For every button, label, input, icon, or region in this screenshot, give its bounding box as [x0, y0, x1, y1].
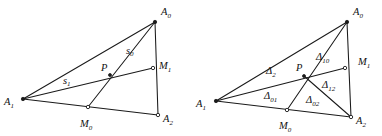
label-A0: A0	[160, 6, 171, 20]
point-M0	[86, 105, 89, 108]
label-M0: M0	[79, 118, 93, 132]
label-A2: A2	[162, 113, 173, 127]
point-M1	[151, 66, 154, 69]
figure-container: A0 A1 A2 M0 M1 P s0 s1	[0, 0, 382, 136]
point-A1	[21, 97, 24, 100]
point-r-M1	[343, 66, 346, 69]
label-r-A0: A0	[352, 6, 363, 20]
label-delta-2: Δ2	[265, 65, 276, 79]
label-A1: A1	[3, 96, 14, 110]
label-s0: s0	[126, 45, 134, 58]
right-panel: A0 A1 A2 M0 M1 P Δ10 Δ2 Δ12 Δ01 Δ02	[195, 6, 370, 134]
edge-A0-M0	[88, 22, 155, 107]
point-A0	[153, 20, 156, 23]
edge-A1-A2	[23, 99, 158, 115]
label-s1: s1	[63, 75, 71, 88]
point-r-A0	[345, 20, 348, 23]
left-panel: A0 A1 A2 M0 M1 P s0 s1	[3, 6, 173, 132]
point-A2	[156, 113, 159, 116]
point-r-A2	[349, 115, 352, 118]
label-delta-01: Δ01	[263, 90, 277, 104]
label-M1: M1	[158, 60, 171, 74]
label-r-M0: M0	[278, 120, 292, 134]
point-r-M0	[285, 108, 288, 111]
edge-A1-M1	[23, 68, 153, 99]
label-P: P	[100, 62, 108, 73]
label-r-P: P	[295, 62, 303, 73]
label-r-M1: M1	[357, 56, 370, 70]
edge-r-A1-A2	[216, 101, 351, 117]
edge-A0-A1	[23, 22, 155, 99]
point-r-P	[303, 75, 306, 78]
edge-A2-A0	[155, 22, 158, 115]
label-r-A2: A2	[355, 115, 366, 129]
label-r-A1: A1	[195, 98, 206, 112]
label-delta-02: Δ02	[305, 94, 320, 108]
point-r-A1	[214, 99, 217, 102]
label-delta-12: Δ12	[321, 79, 336, 93]
label-delta-10: Δ10	[315, 51, 330, 65]
point-P	[109, 74, 112, 77]
edge-r-A2-A0	[347, 22, 351, 117]
geometry-figure: A0 A1 A2 M0 M1 P s0 s1	[0, 0, 382, 136]
